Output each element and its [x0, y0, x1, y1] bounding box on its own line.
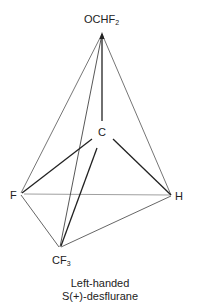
atom-symbol: OCHF: [84, 13, 115, 25]
bond-c-h: [113, 139, 171, 195]
edge-f-cf3: [21, 195, 59, 247]
edge-f-h: [24, 194, 170, 195]
atom-label-bottom: CF3: [52, 254, 71, 266]
atom-subscript: 2: [115, 19, 119, 26]
atom-symbol: H: [175, 190, 183, 202]
bond-c-cf3: [61, 148, 97, 246]
edge-apex-h: [102, 34, 171, 195]
atom-symbol: C: [98, 126, 106, 138]
tetrahedron-diagram: [0, 0, 200, 306]
atom-label-left: F: [10, 189, 17, 201]
atom-symbol: F: [10, 189, 17, 201]
atom-label-right: H: [175, 190, 183, 202]
edge-apex-cf3: [60, 34, 102, 247]
apex-arrow-icon: [100, 32, 105, 39]
atom-subscript: 3: [67, 260, 71, 267]
atom-symbol: CF: [52, 254, 67, 266]
edge-cf3-h: [61, 196, 171, 247]
atom-label-center: C: [98, 126, 106, 138]
caption-line-2: S(+)-desflurane: [0, 290, 200, 303]
atom-label-apex: OCHF2: [84, 13, 119, 25]
caption-line-1: Left-handed: [0, 277, 200, 290]
bond-c-f: [22, 139, 92, 193]
